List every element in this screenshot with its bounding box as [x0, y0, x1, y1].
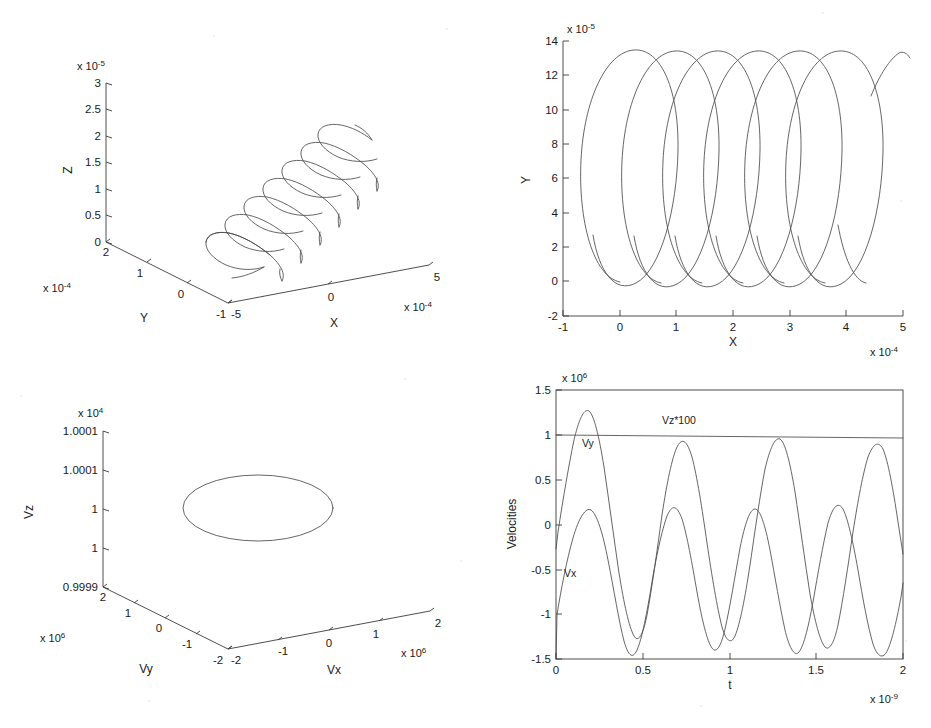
vx-curve	[556, 505, 903, 659]
vz-tick-label-4: 1.0001	[63, 425, 98, 437]
xy-y-tick-label-8: 14	[545, 35, 558, 47]
xy-y-tick-label-7: 12	[545, 69, 558, 81]
vx-tick-label-2: 0	[326, 637, 332, 649]
scan-speck	[404, 378, 406, 380]
xy-trochoid-curve	[581, 50, 910, 287]
scan-speck	[20, 395, 22, 397]
z-tick-label-1: 0.5	[85, 209, 101, 221]
vz-times-100-curve	[556, 435, 903, 438]
scan-speck	[900, 200, 902, 202]
vel-x-tick-label-4: 2	[900, 664, 906, 676]
y-tick-marks	[106, 239, 232, 303]
vy-tick-label-3: -1	[182, 638, 192, 650]
vz-axis-label: Vz	[22, 505, 36, 519]
scan-speck	[822, 12, 824, 14]
xy-y-tick-label-6: 10	[545, 104, 558, 116]
z-tick-label-3: 1.5	[85, 156, 101, 168]
y-axis-exponent: x 10-4	[43, 281, 71, 294]
vel-x-tick-label-2: 1	[727, 664, 733, 676]
y-tick-label-0: 2	[103, 246, 109, 258]
xy-x-tick-label-2: 1	[673, 321, 679, 333]
vel-y-tick-label-3: 0	[545, 519, 551, 531]
plot-3d-position-svg: 3 2.5 2 1.5 1 0.5 0 x 10-5 Z 2 1 0 -1 x …	[0, 0, 466, 364]
xy-x-axis-exponent: x 10-4	[870, 345, 898, 358]
plot-velocities[interactable]: 1.5 1 0.5 0 -0.5 -1 -1.5 x 106 Velocitie…	[466, 364, 931, 728]
velocity-circle-curve	[183, 475, 333, 541]
xy-y-tick-label-3: 4	[552, 207, 559, 219]
vel-y-tick-label-6: 1.5	[535, 384, 551, 396]
xy-y-tick-label-4: 6	[552, 172, 558, 184]
plot-xy-plane[interactable]: -2 0 2 4 6 8 10 12 14 x 10-5 Y -1 0	[466, 0, 931, 364]
xy-x-tick-marks	[563, 310, 903, 316]
xy-y-tick-marks	[563, 41, 569, 316]
xy-y-tick-label-2: 2	[552, 241, 558, 253]
vy-tick-marks	[103, 584, 232, 649]
scan-speck	[460, 560, 462, 562]
vz-axis-exponent: x 104	[78, 406, 104, 419]
z-tick-label-4: 2	[95, 130, 101, 142]
vx-axis-exponent: x 106	[401, 646, 427, 659]
vx-tick-label-3: 1	[373, 628, 379, 640]
vel-y-tick-label-4: 0.5	[535, 474, 551, 486]
plot-3d-position[interactable]: 3 2.5 2 1.5 1 0.5 0 x 10-5 Z 2 1 0 -1 x …	[0, 0, 466, 364]
x-axis-label: X	[330, 316, 338, 330]
z-tick-label-5: 2.5	[85, 103, 101, 115]
z-axis-exponent: x 10-5	[77, 59, 105, 72]
velocities-axes-box	[556, 390, 903, 659]
y-tick-label-1: 1	[137, 267, 143, 279]
y-tick-label-2: 0	[178, 288, 184, 300]
plot-xy-plane-svg: -2 0 2 4 6 8 10 12 14 x 10-5 Y -1 0	[466, 0, 931, 364]
vel-x-axis-label: t	[728, 678, 732, 692]
xy-x-tick-label-1: 0	[617, 321, 623, 333]
z-tick-marks	[106, 83, 112, 244]
vel-y-tick-label-1: -1	[541, 608, 551, 620]
xy-x-tick-label-3: 2	[730, 321, 736, 333]
vel-y-axis-exponent: x 106	[562, 371, 588, 384]
xy-x-tick-label-5: 4	[843, 321, 850, 333]
vy-tick-label-2: 0	[156, 622, 162, 634]
xy-y-tick-label-1: 0	[552, 275, 558, 287]
vy-axis-exponent: x 106	[40, 631, 66, 644]
xy-x-axis-label: X	[729, 335, 737, 349]
vel-y-tick-label-2: -0.5	[531, 564, 551, 576]
x-tick-label-1: 0	[328, 291, 334, 303]
vx-tick-label-0: -2	[231, 654, 241, 666]
z-tick-label-6: 3	[95, 77, 101, 89]
x-axis-exponent: x 10-4	[404, 300, 432, 313]
vz-tick-label-2: 1	[92, 503, 98, 515]
vz-tick-label-3: 1.0001	[63, 464, 98, 476]
vz-tick-marks	[103, 431, 109, 589]
vel-y-tick-label-5: 1	[545, 429, 551, 441]
vx-tick-label-4: 2	[435, 617, 441, 629]
y-axis-line	[106, 242, 228, 303]
plot-3d-velocity[interactable]: 1.0001 1.0001 1 1 0.9999 x 104 Vz 2 1 0 …	[0, 364, 466, 728]
xy-y-axis-exponent: x 10-5	[567, 22, 595, 35]
scan-speck	[148, 700, 150, 702]
annotation-vx: Vx	[564, 567, 577, 579]
xy-y-tick-label-5: 8	[552, 138, 558, 150]
plot-3d-velocity-svg: 1.0001 1.0001 1 1 0.9999 x 104 Vz 2 1 0 …	[0, 364, 466, 728]
vel-y-axis-label: Velocities	[505, 499, 519, 550]
vy-axis-label: Vy	[139, 662, 153, 676]
xy-x-tick-label-4: 3	[787, 321, 793, 333]
plot-velocities-svg: 1.5 1 0.5 0 -0.5 -1 -1.5 x 106 Velocitie…	[466, 364, 931, 728]
vy-tick-label-1: 1	[125, 607, 131, 619]
annotation-vz-times-100: Vz*100	[662, 414, 696, 426]
scan-speck	[905, 640, 907, 642]
vy-curve	[556, 411, 903, 649]
vy-tick-label-0: 2	[100, 591, 106, 603]
vel-y-tick-label-0: -1.5	[531, 653, 551, 665]
vel-x-tick-marks	[556, 653, 903, 659]
xy-y-tick-label-0: -2	[548, 310, 558, 322]
x-tick-label-2: 5	[434, 271, 440, 283]
scan-speck	[446, 28, 448, 30]
vel-x-tick-label-1: 0.5	[635, 664, 651, 676]
vx-tick-label-1: -1	[278, 645, 288, 657]
z-tick-label-0: 0	[95, 236, 101, 248]
scan-speck	[700, 705, 702, 707]
annotation-vy: Vy	[582, 437, 595, 449]
vel-x-tick-label-0: 0	[553, 664, 559, 676]
xy-x-tick-label-6: 5	[900, 321, 906, 333]
vx-axis-label: Vx	[327, 663, 341, 677]
vz-tick-label-1: 1	[92, 542, 98, 554]
